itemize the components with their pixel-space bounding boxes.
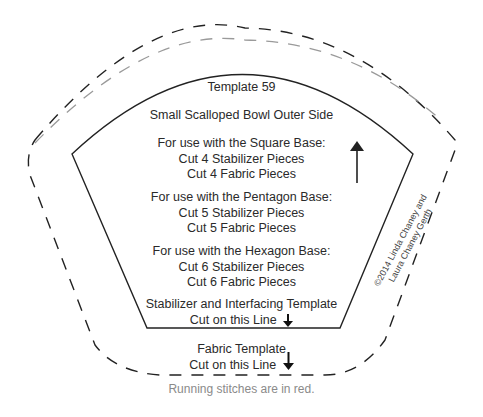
- square-base-group: For use with the Square Base: Cut 4 Stab…: [0, 136, 483, 183]
- running-stitches-note: Running stitches are in red.: [0, 382, 483, 397]
- fabric-label-block: Fabric Template Cut on this Line: [0, 342, 483, 373]
- group-heading: For use with the Pentagon Base:: [0, 190, 483, 206]
- stabilizer-cut-row: Cut on this Line: [0, 313, 483, 329]
- fabric-cut-row: Cut on this Line: [0, 358, 483, 374]
- arrow-down-icon: [283, 352, 294, 370]
- stabilizer-cut-text: Cut on this Line: [190, 313, 277, 327]
- stabilizer-label-block: Stabilizer and Interfacing Template Cut …: [0, 297, 483, 328]
- template-title: Template 59: [0, 80, 483, 95]
- template-subtitle: Small Scalloped Bowl Outer Side: [0, 108, 483, 123]
- group-line: Cut 6 Fabric Pieces: [0, 275, 483, 291]
- arrow-down-icon: [283, 314, 293, 327]
- stabilizer-label: Stabilizer and Interfacing Template: [0, 297, 483, 313]
- group-line: Cut 6 Stabilizer Pieces: [0, 260, 483, 276]
- group-line: Cut 4 Fabric Pieces: [0, 167, 483, 183]
- group-heading: For use with the Square Base:: [0, 136, 483, 152]
- group-line: Cut 4 Stabilizer Pieces: [0, 152, 483, 168]
- fabric-label: Fabric Template: [0, 342, 483, 358]
- fabric-cut-text: Cut on this Line: [189, 358, 276, 372]
